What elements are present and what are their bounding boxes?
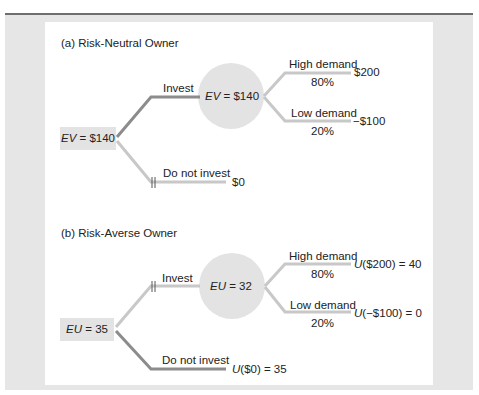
tree-b-no-invest-label: Do not invest <box>162 354 229 367</box>
tree-a-chance-eq: = $140 <box>220 90 259 102</box>
tree-a-low-prob: 20% <box>311 125 334 138</box>
tree-a-root-value: = $140 <box>76 132 115 144</box>
tree-a-root-node: EV = $140 <box>60 127 116 150</box>
tree-b-low-payoff-rest: (−$100) = 0 <box>362 307 421 319</box>
tree-b-invest-label: Invest <box>162 272 193 285</box>
tree-a-invest-branch <box>117 97 200 137</box>
panel-a-title: (a) Risk-Neutral Owner <box>61 37 179 50</box>
tree-a-no-invest-payoff: $0 <box>232 176 245 189</box>
tree-b-chance-eq: = 32 <box>226 280 252 292</box>
panel-b-title: (b) Risk-Averse Owner <box>61 227 177 240</box>
tree-a-high-branch <box>264 73 351 96</box>
tree-a-high-prob: 80% <box>311 76 334 89</box>
tree-b-high-prob: 80% <box>311 268 334 281</box>
tree-a-low-label: Low demand <box>291 107 357 120</box>
tree-b-high-branch <box>265 264 351 286</box>
tree-b-root-node: EU = 35 <box>60 318 114 341</box>
tree-b-invest-branch <box>116 286 200 327</box>
tree-a-invest-label: Invest <box>163 82 194 95</box>
tree-a-no-invest-label: Do not invest <box>163 167 230 180</box>
tree-a-chance-var: EV <box>205 90 220 102</box>
tree-b-root-value: = 35 <box>82 323 108 335</box>
tree-a-high-payoff: $200 <box>354 66 380 79</box>
tree-b-chance-var: EU <box>210 280 226 292</box>
tree-a-root-var: EV <box>61 132 76 144</box>
tree-a-low-payoff: −$100 <box>353 115 385 128</box>
tree-b-chance-value: EU = 32 <box>210 280 252 293</box>
tree-b-high-payoff: U($200) = 40 <box>354 258 421 271</box>
tree-b-high-payoff-rest: ($200) = 40 <box>362 258 421 270</box>
tree-b-no-invest-payoff: U($0) = 35 <box>232 363 287 376</box>
tree-b-low-label: Low demand <box>290 299 356 312</box>
tree-b-low-payoff: U(−$100) = 0 <box>354 307 422 320</box>
tree-b-no-invest-payoff-rest: ($0) = 35 <box>240 363 286 375</box>
tree-a-high-label: High demand <box>289 58 357 71</box>
tree-a-chance-value: EV = $140 <box>205 90 259 103</box>
tree-b-root-var: EU <box>66 323 82 335</box>
tree-b-high-label: High demand <box>289 250 357 263</box>
tree-b-low-prob: 20% <box>311 317 334 330</box>
